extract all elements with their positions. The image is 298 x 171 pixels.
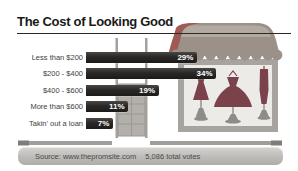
bar-value-label: 19%	[139, 86, 159, 95]
category-label: Takin' out a loan	[0, 119, 86, 128]
sidewalk	[18, 141, 282, 146]
bar: 7%	[86, 118, 113, 129]
bar: 11%	[86, 101, 128, 112]
chart-title: The Cost of Looking Good	[17, 14, 173, 29]
source-bar: Source: www.thepromsite.com 5,086 total …	[18, 147, 283, 165]
category-label: $200 - $400	[0, 69, 86, 78]
bar-row: Less than $20029%	[0, 49, 298, 65]
title-underline	[17, 33, 291, 35]
bar: 29%	[86, 52, 197, 63]
bar-row: Takin' out a loan7%	[0, 115, 298, 131]
bar-value-label: 29%	[177, 53, 197, 62]
bar-row: $400 - $60019%	[0, 82, 298, 98]
total-votes-label: 5,086 total votes	[136, 152, 200, 161]
bar-rows: Less than $20029%$200 - $40034%$400 - $6…	[0, 49, 298, 131]
bar-row: More than $60011%	[0, 98, 298, 114]
bar: 34%	[86, 68, 216, 79]
bar-value-label: 34%	[196, 69, 216, 78]
bar-value-label: 11%	[109, 102, 128, 111]
category-label: More than $600	[0, 102, 86, 111]
category-label: $400 - $600	[0, 86, 86, 95]
bar-value-label: 7%	[98, 119, 113, 128]
bar-row: $200 - $40034%	[0, 66, 298, 82]
category-label: Less than $200	[0, 53, 86, 62]
infographic-card: The Cost of Looking Good Less than $2002…	[0, 0, 298, 171]
bar: 19%	[86, 85, 159, 96]
source-label: Source: www.thepromsite.com	[18, 152, 136, 161]
